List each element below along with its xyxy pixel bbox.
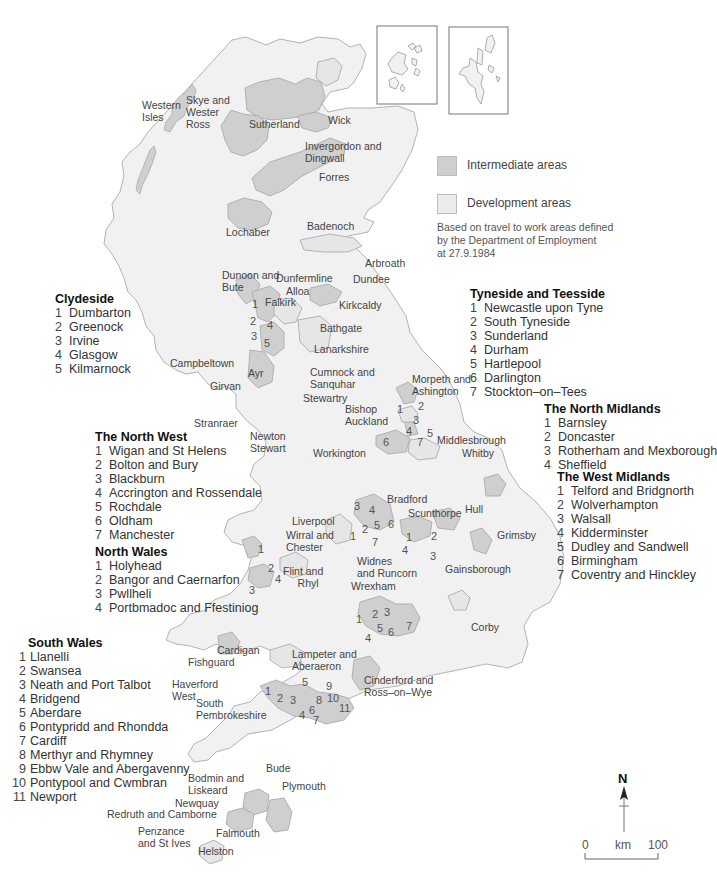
marker-tyneside-5: 5 (427, 427, 433, 439)
legend-item: 3Walsall (557, 512, 696, 526)
label-wirral: Wirral and Chester (286, 529, 334, 553)
label-middlesbrough: Middlesbrough (437, 434, 506, 446)
label-girvan: Girvan (210, 380, 241, 392)
legend-item: 3Sunderland (470, 329, 605, 343)
marker-westmid-4: 4 (365, 632, 371, 644)
label-dunoon: Dunoon and Bute (222, 269, 279, 293)
label-wick: Wick (328, 114, 351, 126)
marker-clydeside-5: 5 (264, 337, 270, 349)
label-gainsborough: Gainsborough (445, 563, 511, 575)
label-scunthorpe: Scunthorpe (408, 507, 462, 519)
marker-northwales-1: 1 (258, 543, 264, 555)
north-label: N (618, 771, 627, 786)
legend-item: 3Irvine (55, 334, 131, 348)
label-bishop-auckland: Bishop Auckland (345, 403, 388, 427)
legend-item: 7Manchester (95, 528, 262, 542)
legend-title: The North West (95, 430, 262, 444)
marker-northwales-4: 4 (275, 573, 281, 585)
marker-southwales-11: 11 (339, 702, 350, 714)
marker-westmid-1: 1 (356, 613, 362, 625)
label-corby: Corby (471, 621, 499, 633)
legend-item: 5Hartlepool (470, 357, 605, 371)
legend-item: 2Doncaster (544, 430, 717, 444)
legend-title: Clydeside (55, 292, 131, 306)
legend-item: 1Barnsley (544, 416, 717, 430)
label-penzance: Penzance and St Ives (138, 825, 191, 849)
label-western-isles: Western Isles (142, 99, 181, 123)
label-south-pembrokeshire: South Pembrokeshire (196, 697, 267, 721)
legend-item: 6Darlington (470, 371, 605, 385)
shetland-inset (449, 27, 508, 114)
marker-northmid-1: 1 (406, 531, 412, 543)
legend-item: 2Bangor and Caernarfon (95, 573, 258, 587)
label-stewartry: Stewartry (303, 392, 347, 404)
label-whitby: Whitby (462, 447, 494, 459)
label-stranraer: Stranraer (194, 417, 238, 429)
label-redruth: Redruth and Camborne (107, 808, 217, 820)
note-line: by the Department of Employment (437, 234, 613, 247)
legend-item: 5Rochdale (95, 500, 262, 514)
legend-item: 1Wigan and St Helens (95, 444, 262, 458)
legend-item: 10Pontypool and Cwmbran (6, 776, 190, 790)
legend-item: 2Greenock (55, 320, 131, 334)
legend-item: 3Neath and Port Talbot (6, 678, 190, 692)
legend-item: 4Kidderminster (557, 526, 696, 540)
label-ayr: Ayr (248, 367, 264, 379)
legend-item: 8Merthyr and Rhymney (6, 748, 190, 762)
orkney-inset (377, 26, 437, 104)
legend-title: The North Midlands (544, 402, 717, 416)
label-forres: Forres (319, 171, 349, 183)
label-falmouth: Falmouth (216, 827, 260, 839)
legend-item: 3Pwllheli (95, 587, 258, 601)
legend-south-wales: South Wales 1Llanelli 2Swansea 3Neath an… (6, 636, 190, 804)
legend-item: 7Cardiff (6, 734, 190, 748)
marker-southwales-5: 5 (302, 676, 308, 688)
legend-item: 6Pontypridd and Rhondda (6, 720, 190, 734)
label-widnes: Widnes and Runcorn (357, 555, 417, 579)
label-lanarkshire: Lanarkshire (314, 343, 369, 355)
legend-north-west: The North West 1Wigan and St Helens 2Bol… (95, 430, 262, 542)
legend-item: 11Newport (6, 790, 190, 804)
label-helston: Helston (198, 845, 234, 857)
legend-item: 3Rotherham and Mexborough (544, 444, 717, 458)
marker-southwales-3: 3 (290, 694, 296, 706)
scale-start: 0 (582, 838, 589, 852)
marker-northwales-2: 2 (268, 562, 274, 574)
marker-northwest-1: 1 (350, 530, 356, 542)
legend-item: 7Coventry and Hinckley (557, 568, 696, 582)
legend-item: 1Newcastle upon Tyne (470, 301, 605, 315)
legend-west-midlands: The West Midlands 1Telford and Bridgnort… (557, 470, 696, 582)
note-line: Based on travel to work areas defined (437, 221, 613, 234)
key-intermediate-label: Intermediate areas (467, 158, 567, 172)
legend-title: South Wales (28, 636, 190, 650)
label-fishguard: Fishguard (188, 656, 235, 668)
legend-item: 2Bolton and Bury (95, 458, 262, 472)
legend-item: 4Glasgow (55, 348, 131, 362)
label-grimsby: Grimsby (497, 529, 536, 541)
intermediate-swatch (437, 156, 457, 176)
marker-southwales-2: 2 (277, 692, 283, 704)
marker-westmid-5: 5 (377, 622, 383, 634)
legend-clydeside: Clydeside 1Dumbarton 2Greenock 3Irvine 4… (55, 292, 131, 376)
label-workington: Workington (313, 447, 366, 459)
legend-item: 5Dudley and Sandwell (557, 540, 696, 554)
legend-title: Tyneside and Teesside (470, 287, 605, 301)
area-plymouth (266, 798, 292, 832)
scale-end: 100 (648, 838, 668, 852)
label-cumnock: Cumnock and Sanquhar (310, 366, 375, 390)
label-badenoch: Badenoch (307, 220, 354, 232)
marker-westmid-3: 3 (384, 606, 390, 618)
legend-item: 6Birmingham (557, 554, 696, 568)
label-dundee: Dundee (353, 273, 390, 285)
label-morpeth: Morpeth and Ashington (412, 373, 471, 397)
marker-tyneside-7: 7 (417, 436, 423, 448)
marker-southwales-10: 10 (327, 692, 339, 704)
marker-westmid-6: 6 (388, 626, 394, 638)
label-lampeter: Lampeter and Aberaeron (292, 648, 357, 672)
label-bodmin: Bodmin and Liskeard (188, 772, 244, 796)
marker-clydeside-3: 3 (251, 330, 257, 342)
legend-item: 4Portbmadoc and Ffestiniog (95, 601, 258, 615)
legend-item: 9Ebbw Vale and Abergavenny (6, 762, 190, 776)
label-campbeltown: Campbeltown (170, 357, 234, 369)
label-hull: Hull (465, 503, 483, 515)
